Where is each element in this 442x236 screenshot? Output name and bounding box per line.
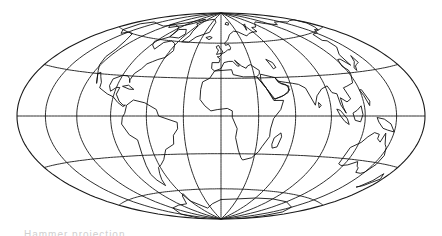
graticule-lines bbox=[17, 13, 425, 219]
landmass-indonesia-borneo bbox=[353, 106, 363, 122]
world-map bbox=[0, 0, 442, 236]
landmass-sri-lanka bbox=[319, 103, 322, 108]
landmass-madagascar bbox=[272, 133, 282, 148]
landmass-iceland bbox=[206, 37, 212, 40]
landmass-sumatra bbox=[337, 109, 349, 124]
landmass-caspian bbox=[266, 59, 276, 69]
landmass-japan bbox=[351, 56, 359, 71]
map-caption: Hammer projection bbox=[24, 229, 125, 236]
landmass-philippines bbox=[359, 90, 370, 106]
landmass-cuba bbox=[123, 85, 134, 89]
landmass-australia bbox=[339, 133, 386, 174]
landmass-africa bbox=[200, 70, 284, 160]
landmass-new-guinea bbox=[377, 118, 394, 133]
landmass-europe-asia bbox=[212, 20, 353, 113]
landmass-svalbard bbox=[225, 22, 229, 25]
landmass-britain bbox=[216, 45, 222, 54]
